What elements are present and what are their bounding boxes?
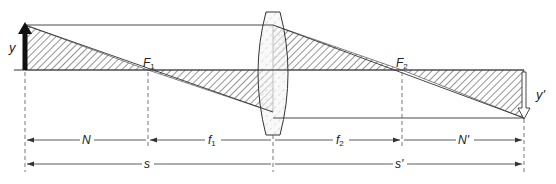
label-dim-s-prime: s' xyxy=(395,157,404,171)
label-dim-N: N xyxy=(82,133,91,147)
label-image-height: y' xyxy=(535,87,546,102)
label-dim-N-prime: N' xyxy=(458,133,470,147)
lens xyxy=(258,12,288,135)
lens-diagram: y y' F1 F2 N f1 f2 N' s s' xyxy=(0,0,556,184)
label-f2-point: F2 xyxy=(396,56,408,71)
label-object-height: y xyxy=(8,40,17,55)
label-dim-s: s xyxy=(144,157,150,171)
label-f1-point: F1 xyxy=(143,56,155,71)
